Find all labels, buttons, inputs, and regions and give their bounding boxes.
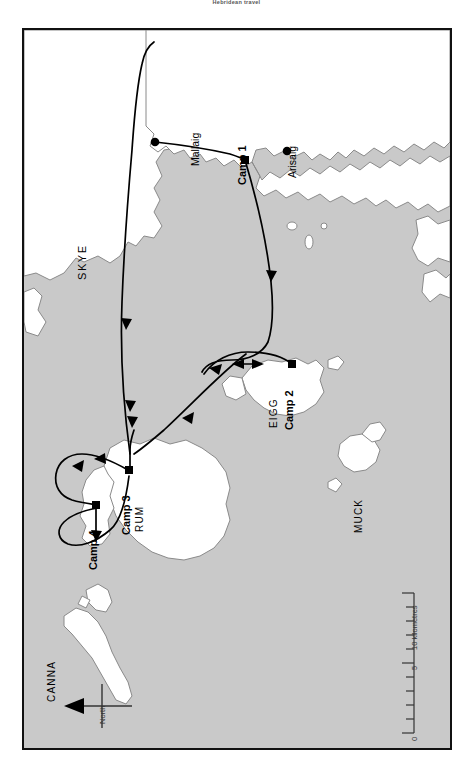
label-island-eigg: EIGG xyxy=(268,398,279,428)
scalebar-tick-0: 0 xyxy=(410,737,419,741)
label-camp3: Camp 3 xyxy=(120,495,132,535)
islet-arisaig-1 xyxy=(287,222,297,230)
marker-mallaig[interactable] xyxy=(151,138,160,147)
label-island-canna: CANNA xyxy=(46,661,57,702)
label-camp1: Camp 1 xyxy=(236,145,248,185)
islet-arisaig-2 xyxy=(305,235,313,249)
label-island-rum: RUM xyxy=(134,506,145,532)
label-mallaig: Mallaig xyxy=(189,133,201,166)
islet-arisaig-3 xyxy=(321,223,327,229)
map-frame: Mallaig Arisaig Camp 1 Camp 2 Camp 3 Cam… xyxy=(22,28,452,750)
mainland-east-lobe xyxy=(412,216,450,266)
map-page: Hebridean travel xyxy=(0,0,473,777)
marker-camp4[interactable] xyxy=(92,501,100,509)
label-camp4: Camp 4 xyxy=(87,530,99,570)
compass-label: North xyxy=(98,706,107,724)
scalebar-tick-5: 5 xyxy=(410,666,419,670)
figure-caption: Hebridean travel xyxy=(0,0,473,6)
label-camp2: Camp 2 xyxy=(283,390,295,430)
label-arisaig: Arisaig xyxy=(286,146,298,178)
scalebar-unit-label: 10 kilometres xyxy=(410,605,419,650)
map-canvas xyxy=(24,30,450,748)
label-island-muck: MUCK xyxy=(353,499,364,533)
marker-camp2[interactable] xyxy=(288,360,296,368)
label-island-skye: SKYE xyxy=(76,244,88,280)
marker-camp3[interactable] xyxy=(125,466,133,474)
